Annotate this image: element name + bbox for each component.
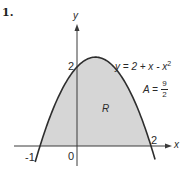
area-annotation: A = 9 2 — [143, 80, 168, 99]
x-axis-arrow-icon — [165, 144, 172, 149]
area-lhs: A = — [143, 84, 158, 95]
y-axis-arrow-icon — [75, 24, 80, 31]
y-tick-2: 2 — [68, 61, 74, 72]
area-fraction: 9 2 — [161, 80, 168, 99]
equation-label: y = 2 + x - x2 — [115, 60, 171, 72]
y-axis-label: y — [73, 11, 78, 21]
x-tick-neg1: -1 — [25, 152, 35, 163]
x-axis-label: x — [174, 140, 179, 150]
x-tick-2: 2 — [151, 135, 157, 146]
region-label: R — [102, 104, 109, 114]
equation-text: y = 2 + x - x — [115, 61, 167, 72]
area-numerator: 9 — [162, 80, 166, 88]
origin-label: 0 — [68, 151, 74, 162]
equation-exponent: 2 — [167, 60, 171, 67]
area-denominator: 2 — [162, 91, 166, 99]
